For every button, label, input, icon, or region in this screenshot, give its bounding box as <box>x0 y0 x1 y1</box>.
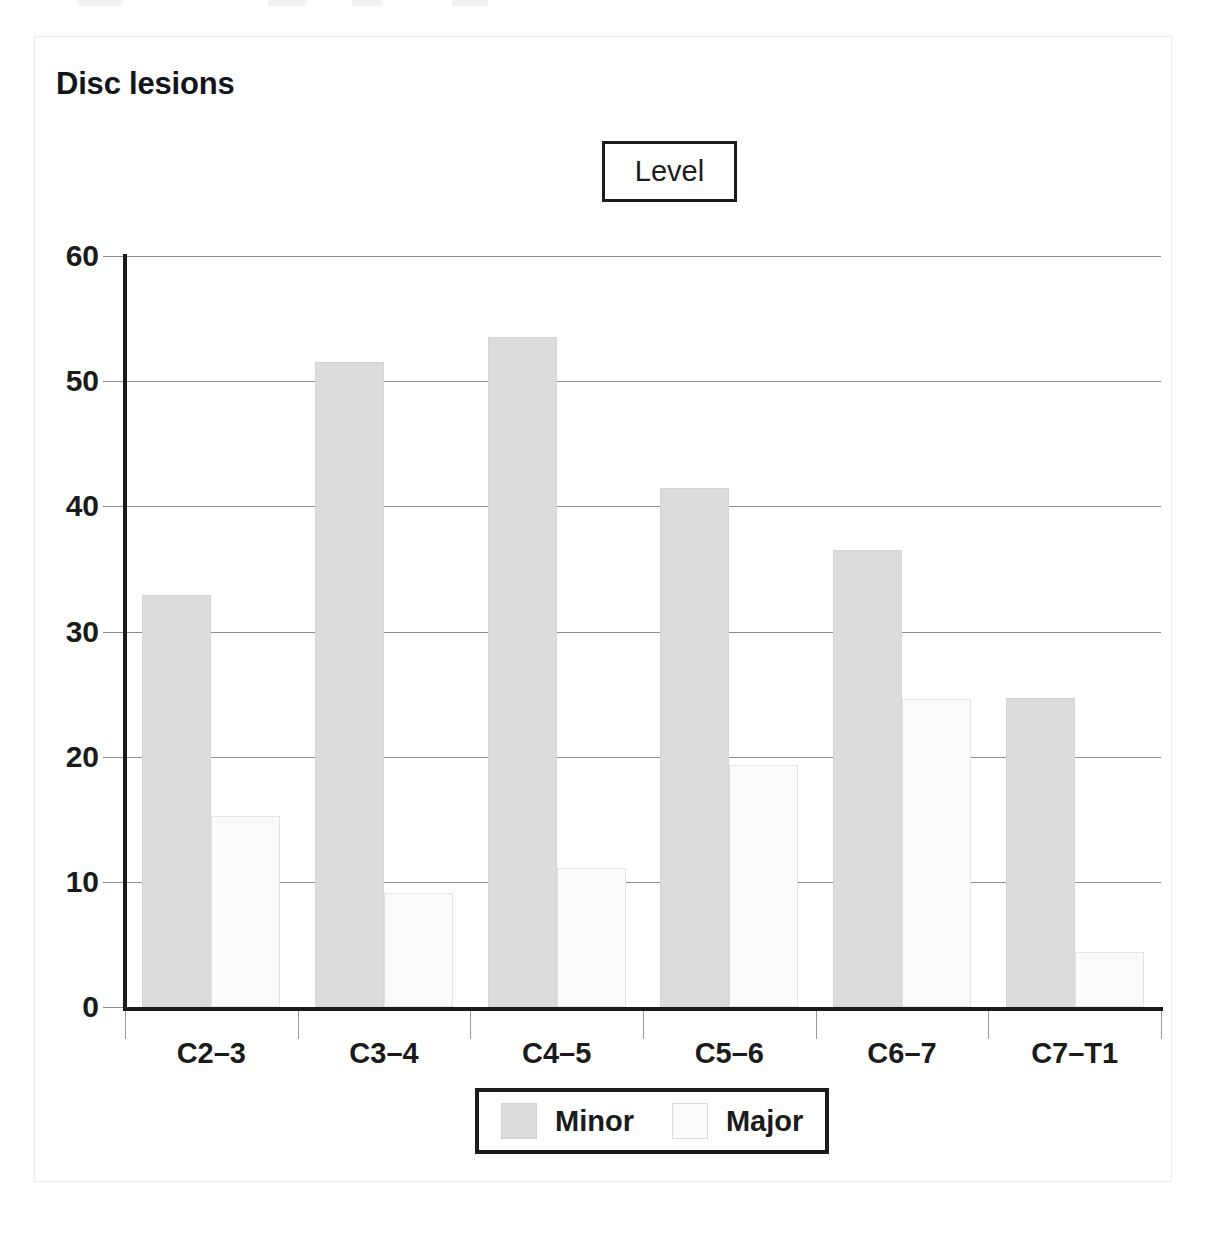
y-axis-tick <box>103 1007 125 1008</box>
y-axis-tick-label: 30 <box>66 615 99 649</box>
legend-item-minor[interactable]: Minor <box>501 1103 634 1139</box>
y-axis-tick <box>103 506 125 507</box>
legend-swatch-minor <box>501 1103 537 1139</box>
chart-legend: MinorMajor <box>475 1088 829 1154</box>
clipped-ghost-item <box>352 0 382 6</box>
bar-minor-C67[interactable] <box>833 550 902 1007</box>
y-axis-tick-label: 10 <box>66 865 99 899</box>
bar-major-C23[interactable] <box>211 816 280 1008</box>
y-axis-tick <box>103 256 125 257</box>
clipped-ghost-item <box>268 0 306 6</box>
bar-minor-C45[interactable] <box>488 337 557 1007</box>
bar-minor-C23[interactable] <box>142 595 211 1007</box>
bar-major-C45[interactable] <box>557 868 626 1007</box>
bar-major-C34[interactable] <box>384 893 453 1007</box>
x-axis-tick-label: C3–4 <box>349 1037 418 1070</box>
x-axis-tick <box>470 1011 471 1039</box>
y-axis-tick-label: 0 <box>82 990 99 1024</box>
legend-item-major[interactable]: Major <box>672 1103 803 1139</box>
bar-minor-C34[interactable] <box>315 362 384 1007</box>
legend-label: Minor <box>555 1105 634 1138</box>
y-axis-tick-label: 20 <box>66 740 99 774</box>
chart-card: Disc lesions Level 0102030405060 C2–3C3–… <box>34 36 1172 1182</box>
bar-groups <box>125 256 1161 1007</box>
x-axis-tick-label: C4–5 <box>522 1037 591 1070</box>
y-axis-tick <box>103 882 125 883</box>
bar-minor-C7T1[interactable] <box>1006 698 1075 1007</box>
y-axis-tick <box>103 757 125 758</box>
bar-major-C56[interactable] <box>729 765 798 1007</box>
bar-major-C67[interactable] <box>902 699 971 1007</box>
legend-swatch-major <box>672 1103 708 1139</box>
x-axis-tick-label: C5–6 <box>695 1037 764 1070</box>
x-axis-tick-label: C2–3 <box>177 1037 246 1070</box>
strip-title-box: Level <box>602 141 737 202</box>
x-axis-tick-label: C6–7 <box>867 1037 936 1070</box>
x-axis-tick-label: C7–T1 <box>1031 1037 1118 1070</box>
y-axis-tick <box>103 632 125 633</box>
x-axis-tick <box>816 1011 817 1039</box>
y-axis-tick-label: 50 <box>66 364 99 398</box>
x-axis-tick <box>988 1011 989 1039</box>
clipped-ghost-item <box>452 0 488 6</box>
x-axis-tick <box>643 1011 644 1039</box>
clipped-ghost-item <box>78 0 122 6</box>
y-axis-tick-label: 60 <box>66 239 99 273</box>
clipped-top-row <box>0 0 1208 10</box>
x-axis-tick <box>125 1011 126 1039</box>
plot-area: 0102030405060 C2–3C3–4C4–5C5–6C6–7C7–T1 <box>125 256 1161 1007</box>
x-axis-tick <box>1161 1011 1162 1039</box>
x-axis-tick <box>298 1011 299 1039</box>
page-title: Disc lesions <box>56 66 235 102</box>
x-axis-ticks: C2–3C3–4C4–5C5–6C6–7C7–T1 <box>125 1011 1165 1081</box>
bar-minor-C56[interactable] <box>660 488 729 1007</box>
strip-title-label: Level <box>635 157 704 186</box>
bar-major-C7T1[interactable] <box>1075 952 1144 1007</box>
y-axis-tick-label: 40 <box>66 489 99 523</box>
y-axis-tick <box>103 381 125 382</box>
legend-label: Major <box>726 1105 803 1138</box>
